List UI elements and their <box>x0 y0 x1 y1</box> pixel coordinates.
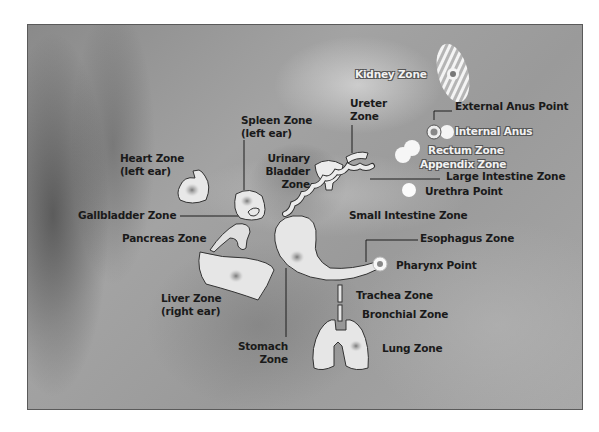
small-intestine-label: Small Intestine Zone <box>349 209 468 221</box>
ureter-zone-label-line2: Zone <box>350 110 379 122</box>
liver-zone-label-line2: (right ear) <box>161 305 220 317</box>
esophagus-zone-label: Esophagus Zone <box>420 232 514 244</box>
appendix-zone-label: Appendix Zone <box>420 158 506 170</box>
bladder-zone-label-line1: Urinary <box>265 152 310 164</box>
kidney-zone-shape <box>431 40 476 106</box>
heart-zone-shape <box>178 170 209 203</box>
urethra-point-label: Urethra Point <box>425 185 503 197</box>
lung-zone-label: Lung Zone <box>382 342 442 354</box>
spleen-zone-label-line2: (left ear) <box>241 127 292 139</box>
trachea-bronchial-shape <box>338 285 342 321</box>
bladder-zone-label-line3: Zone <box>265 178 310 190</box>
ureter-zone-shape <box>346 152 368 163</box>
pancreas-zone-label: Pancreas Zone <box>122 232 206 244</box>
internal-anus-label: Internal Anus <box>455 125 532 137</box>
rectum-appendix-starburst <box>395 140 420 163</box>
stomach-zone-shape <box>275 216 380 281</box>
ureter-zone-label-line1: Ureter <box>350 97 387 109</box>
stomach-zone-label-line2: Zone <box>236 353 288 365</box>
pharynx-point-label: Pharynx Point <box>396 259 477 271</box>
rectum-zone-label: Rectum Zone <box>428 144 504 156</box>
kidney-zone-label: Kidney Zone <box>355 68 427 80</box>
liver-zone-label-line1: Liver Zone <box>161 292 222 304</box>
heart-zone-label-line1: Heart Zone <box>120 152 184 164</box>
external-anus-point-marker <box>427 125 454 139</box>
bladder-zone-label-line2: Bladder <box>265 165 310 177</box>
external-anus-label: External Anus Point <box>455 100 568 112</box>
trachea-zone-label: Trachea Zone <box>356 289 433 301</box>
large-intestine-label: Large Intestine Zone <box>446 170 565 182</box>
stomach-zone-label-line1: Stomach <box>236 340 288 352</box>
pharynx-point-marker <box>373 257 387 271</box>
gallbladder-zone-label: Gallbladder Zone <box>78 209 176 221</box>
bronchial-zone-label: Bronchial Zone <box>362 308 448 320</box>
spleen-zone-label-line1: Spleen Zone <box>241 114 312 126</box>
lung-zone-shape <box>313 320 369 370</box>
pancreas-zone-shape <box>210 224 250 252</box>
spleen-zone-shape <box>235 190 265 220</box>
heart-zone-label-line2: (left ear) <box>120 165 171 177</box>
urethra-point-marker <box>402 183 416 197</box>
